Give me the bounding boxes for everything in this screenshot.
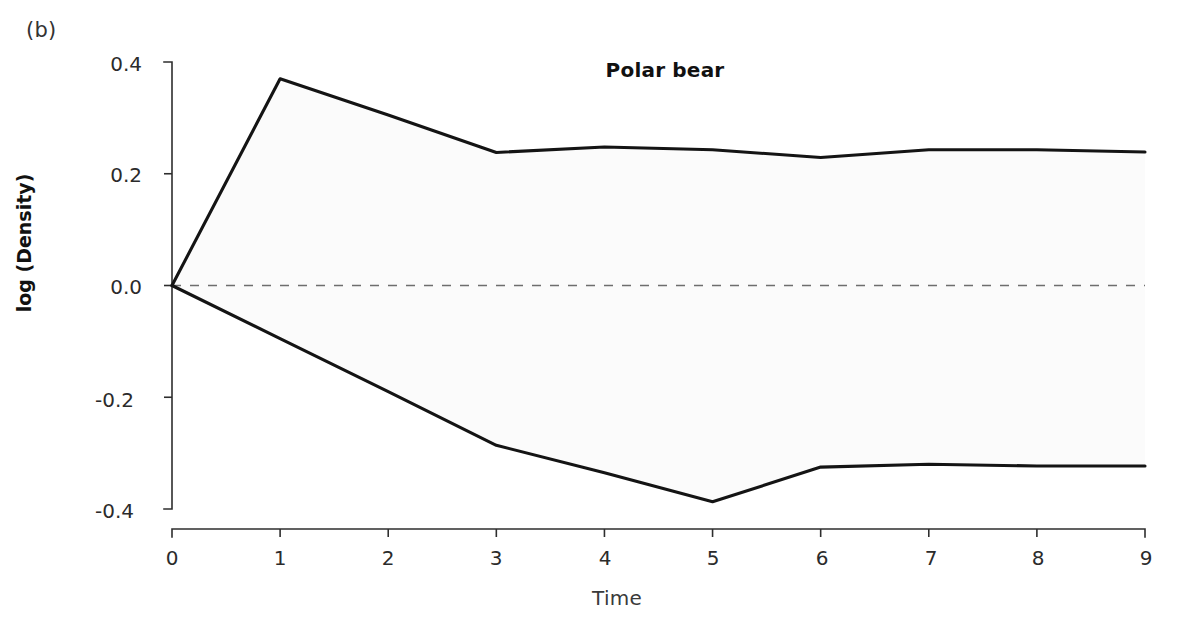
figure-panel: (b) Polar bear log (Density) Time 0.4 0.… [0, 0, 1180, 642]
x-axis-ticks [280, 529, 1037, 537]
envelope-fill-area [172, 79, 1145, 502]
plot-area [0, 0, 1180, 642]
x-axis-line [172, 529, 1145, 537]
